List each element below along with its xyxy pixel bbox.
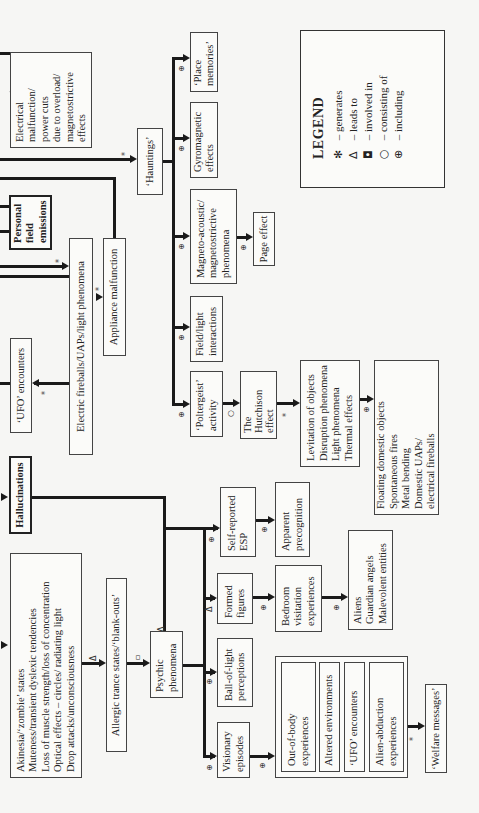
node-personal-field-emissions: Personal field emissions <box>9 195 52 250</box>
node-apparent-precognition: Apparent precognition <box>275 482 310 557</box>
arrow <box>210 752 217 760</box>
node-alien-abduction: Alien-abduction experiences <box>369 662 404 772</box>
wire-hauntings-spine <box>172 57 175 406</box>
wire-personal-a <box>0 205 9 208</box>
node-psychic-phenomena: Psychic phenomena <box>150 631 183 698</box>
square-icon: ◘ <box>361 143 376 159</box>
arrow <box>268 752 275 760</box>
node-line: episodes <box>234 728 247 772</box>
including-symbol: ⊕ <box>333 604 341 611</box>
node-label: ‘UFO’ encounters <box>15 348 28 423</box>
node-line: Domestic UAPs/ <box>413 366 426 509</box>
node-line: Guardian angels <box>364 536 377 624</box>
including-symbol: ⊕ <box>178 334 186 341</box>
node-line: Muteness/transient dyslexic tendencies <box>27 559 40 772</box>
arrow <box>183 400 190 408</box>
node-line: Alien-abduction <box>374 668 387 766</box>
node-electric-fireballs: Electric fireballs/UAPs/light phenomena <box>69 238 93 455</box>
node-line: Formed <box>223 579 236 618</box>
node-line: ‘Place <box>192 38 205 86</box>
node-label: ‘UFO’ encounters <box>348 668 361 766</box>
node-ufo-encounters-inner: ‘UFO’ encounters <box>344 662 365 772</box>
node-welfare-messages: ‘Welfare messages’ <box>425 684 447 773</box>
node-ball-of-light: Ball-of-light perceptions <box>217 638 253 707</box>
leads-to-symbol: Δ <box>90 656 98 661</box>
node-akinesia-symptoms: Akinesia/‘zombie’ states Muteness/transi… <box>10 553 82 778</box>
node-label: Hallucinations <box>14 462 27 527</box>
generates-symbol: * <box>42 391 50 395</box>
wire-to-appliance <box>0 177 116 180</box>
node-line: experiences <box>305 571 318 626</box>
node-line: Optical effects – circles/ radiating lig… <box>52 559 65 772</box>
node-line: Drop attacks/unconsciousness <box>65 559 78 772</box>
node-line: power cuts <box>39 58 52 142</box>
node-line: magnetostrictive <box>64 58 77 142</box>
node-line: Gyromagnetic <box>192 108 205 172</box>
node-line: Loss of muscle strength/loss of concentr… <box>40 559 53 772</box>
including-symbol: ⊕ <box>240 244 248 251</box>
node-hallucinations: Hallucinations <box>9 456 32 534</box>
node-line: Aliens <box>352 536 365 624</box>
including-symbol: ⊕ <box>206 764 214 771</box>
arrow <box>96 293 103 301</box>
node-label: Appliance malfunction <box>108 249 121 346</box>
node-appliance-malfunction: Appliance malfunction <box>103 238 126 356</box>
node-levitation-phenomena: Levitation of objects Disruption phenome… <box>300 360 360 467</box>
legend-title: LEGEND <box>311 49 327 159</box>
node-line: Electrical <box>14 58 27 142</box>
node-hauntings: ‘Hauntings’ <box>137 128 163 195</box>
arrow <box>99 659 106 667</box>
node-magneto-acoustic: Magneto-acoustic/ magnetostrictive pheno… <box>190 189 237 284</box>
node-page-effect: Page effect <box>253 212 275 266</box>
node-line: effects <box>76 58 89 142</box>
node-line: Floating domestic objects <box>375 366 388 509</box>
wire-fireballs-to-ufo <box>34 382 69 385</box>
node-label: ‘Hauntings’ <box>144 136 157 186</box>
node-formed-figures: Formed figures <box>217 573 253 624</box>
node-line: experiences <box>299 668 312 766</box>
node-visionary-group: Out-of-body experiences Altered environm… <box>275 656 408 778</box>
arrow <box>246 233 253 241</box>
legend-item-consisting-of: ○ – consisting of <box>376 49 391 159</box>
node-poltergeist-activity: ‘Poltergeist’ activity <box>190 371 223 437</box>
node-line: electrical fireballs <box>425 366 438 509</box>
legend-label: – including <box>392 90 404 140</box>
including-symbol: ⊕ <box>206 678 214 685</box>
asterisk-icon: ✻ <box>331 143 346 159</box>
node-line: Disruption phenomena <box>318 366 331 461</box>
node-line: Out-of-body <box>286 668 299 766</box>
including-symbol: ⊕ <box>178 65 186 72</box>
node-altered-environments: Altered environments <box>319 662 340 772</box>
including-symbol: ⊕ <box>261 526 269 533</box>
wire-allergic-psychic <box>127 662 144 665</box>
wire-fireballs-b <box>0 275 69 278</box>
triangle-icon: Δ <box>346 143 361 159</box>
node-place-memories: ‘Place memories’ <box>190 32 218 92</box>
node-line: Field/light <box>194 302 207 356</box>
node-line: Ball-of-light <box>223 644 236 701</box>
wire-hallucinations <box>32 496 166 499</box>
arrow <box>143 659 150 667</box>
leads-to-symbol: Δ <box>206 607 214 612</box>
node-allergic-trance: Allergic trance states/‘blank-outs’ <box>106 578 127 752</box>
node-line: visitation <box>292 571 305 626</box>
legend-item-involved-in: ◘ – involved in <box>361 49 376 159</box>
including-symbol: ⊕ <box>178 145 186 152</box>
node-field-light-interactions: Field/light interactions <box>190 296 223 362</box>
node-line: interactions <box>207 302 220 356</box>
generates-symbol: * <box>283 413 291 417</box>
arrow <box>418 722 425 730</box>
generates-symbol: * <box>122 152 130 156</box>
diagram-canvas: * * * * Δ ▫ Δ ⊕ ⊕ Δ ⊕ ⊕ ⊕ ⊕ <box>0 0 479 813</box>
node-line: activity <box>207 377 220 431</box>
wire-to-fireballs <box>0 265 66 268</box>
node-floating-domestic: Floating domestic objects Spontaneous fi… <box>374 360 439 515</box>
arrow <box>183 134 190 142</box>
arrow <box>268 593 275 601</box>
legend-item-including: ⊕ – including <box>391 49 406 159</box>
node-line: due to overload/ <box>51 58 64 142</box>
wire-to-hauntings <box>0 158 133 161</box>
node-line: field <box>24 202 37 243</box>
node-line: ESP <box>238 493 251 551</box>
arrow <box>183 54 190 62</box>
